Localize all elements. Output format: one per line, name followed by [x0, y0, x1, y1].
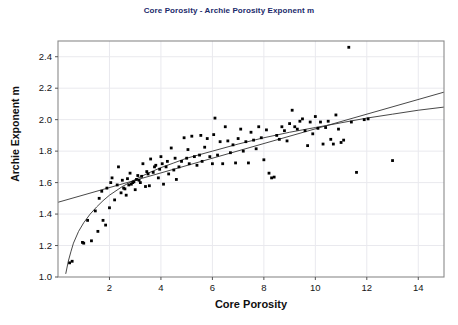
- data-point: [329, 138, 332, 141]
- y-tick-label: 1.2: [24, 240, 52, 251]
- data-point: [98, 197, 101, 200]
- data-point: [109, 181, 112, 184]
- data-point: [257, 125, 260, 128]
- data-point: [301, 117, 304, 120]
- data-point: [268, 172, 271, 175]
- data-point: [275, 134, 278, 137]
- data-point: [309, 121, 312, 124]
- data-point: [124, 187, 127, 190]
- data-point: [255, 147, 258, 150]
- data-point: [127, 184, 130, 187]
- data-point: [335, 114, 338, 117]
- data-point: [332, 143, 335, 146]
- data-point: [142, 162, 145, 165]
- data-point: [355, 171, 358, 174]
- data-point: [126, 177, 129, 180]
- data-point: [190, 135, 193, 138]
- x-tick-label: 10: [305, 282, 325, 293]
- data-point: [166, 160, 169, 163]
- data-point: [134, 188, 137, 191]
- data-point: [187, 148, 190, 151]
- data-point: [148, 184, 151, 187]
- data-point: [90, 239, 93, 242]
- data-point: [108, 206, 111, 209]
- data-point: [144, 185, 147, 188]
- data-point: [139, 181, 142, 184]
- data-point: [296, 128, 299, 131]
- data-point: [158, 168, 161, 171]
- data-point: [196, 164, 199, 167]
- data-point: [317, 127, 320, 130]
- data-point: [96, 230, 99, 233]
- data-point: [135, 178, 138, 181]
- data-point: [221, 162, 224, 165]
- data-point: [161, 162, 164, 165]
- y-tick-label: 2.4: [24, 51, 52, 62]
- data-point: [113, 199, 116, 202]
- data-point: [165, 165, 168, 168]
- data-point: [342, 139, 345, 142]
- data-point: [314, 115, 317, 118]
- data-point: [324, 126, 327, 129]
- data-point: [280, 125, 283, 128]
- data-point: [278, 138, 281, 141]
- data-point: [391, 159, 394, 162]
- data-point: [102, 219, 105, 222]
- data-point: [185, 157, 188, 160]
- x-tick-label: 4: [151, 282, 171, 293]
- data-point: [203, 146, 206, 149]
- x-tick-label: 2: [99, 282, 119, 293]
- data-point: [116, 184, 119, 187]
- data-point: [129, 172, 132, 175]
- data-point: [175, 178, 178, 181]
- data-point: [311, 132, 314, 135]
- data-point: [136, 174, 139, 177]
- data-point: [111, 176, 114, 179]
- data-point: [288, 122, 291, 125]
- data-point: [234, 162, 237, 165]
- y-tick-label: 1.8: [24, 145, 52, 156]
- data-point: [298, 120, 301, 123]
- y-tick-label: 1.4: [24, 208, 52, 219]
- data-point: [172, 169, 175, 172]
- data-point: [206, 137, 209, 140]
- data-point: [239, 128, 242, 131]
- y-tick-label: 1.0: [24, 271, 52, 282]
- chart-container: Core Porosity - Archie Porosity Exponent…: [0, 0, 458, 325]
- data-point: [260, 136, 263, 139]
- data-point: [219, 140, 222, 143]
- data-point: [125, 194, 128, 197]
- data-point: [337, 128, 340, 131]
- data-point: [201, 160, 204, 163]
- data-point: [199, 134, 202, 137]
- data-point: [121, 179, 124, 182]
- data-point: [237, 137, 240, 140]
- data-point: [183, 136, 186, 139]
- data-point: [174, 157, 177, 160]
- data-point: [304, 129, 307, 132]
- y-tick-label: 2.2: [24, 82, 52, 93]
- data-point: [193, 155, 196, 158]
- data-point: [208, 155, 211, 158]
- data-point: [104, 224, 107, 227]
- data-point: [273, 176, 276, 179]
- data-point: [322, 143, 325, 146]
- data-point: [86, 219, 89, 222]
- data-point: [283, 129, 286, 132]
- data-point: [162, 183, 165, 186]
- data-point: [214, 117, 217, 120]
- plot-area: [0, 0, 458, 325]
- x-tick-label: 8: [254, 282, 274, 293]
- data-point: [140, 175, 143, 178]
- data-point: [212, 133, 215, 136]
- data-point: [363, 118, 366, 121]
- data-point: [265, 128, 268, 131]
- data-point: [216, 154, 219, 157]
- data-point: [120, 191, 123, 194]
- data-point: [180, 160, 183, 163]
- data-point: [117, 165, 120, 168]
- data-point: [105, 187, 108, 190]
- data-point: [347, 46, 350, 49]
- data-point: [232, 143, 235, 146]
- data-point: [262, 158, 265, 161]
